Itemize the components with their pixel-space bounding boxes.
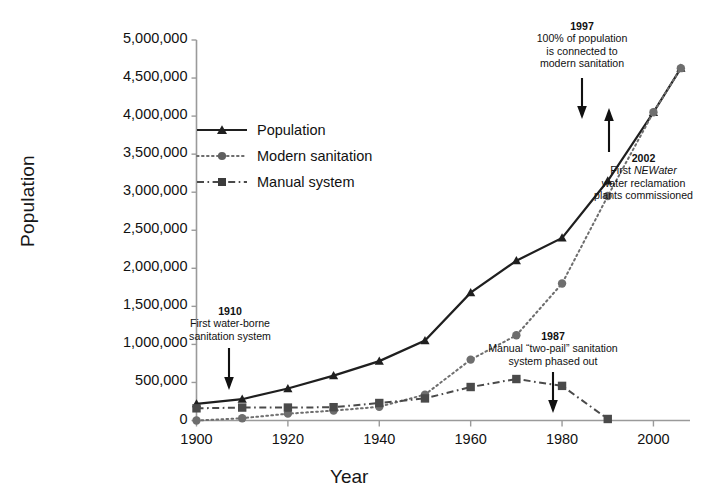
- y-tick-label: 3,000,000: [68, 182, 188, 198]
- annotation-1987-line1: Manual “two-pail” sanitation: [464, 342, 642, 354]
- legend-key-population-icon: [196, 123, 248, 137]
- data-point-manual-system[interactable]: [238, 403, 246, 411]
- data-point-modern-sanitation[interactable]: [238, 414, 246, 422]
- annotation-1987-year: 1987: [464, 330, 642, 342]
- y-tick-label: 4,500,000: [68, 68, 188, 84]
- legend-item-modern-sanitation[interactable]: Modern sanitation: [196, 143, 372, 169]
- x-axis-title: Year: [330, 466, 368, 488]
- arrow-1910-head: [224, 377, 234, 390]
- series-line-manual-system: [197, 379, 608, 419]
- annotation-1997: 1997 100% of population is connected to …: [502, 20, 662, 70]
- x-tick-label: 2000: [623, 431, 683, 447]
- data-point-modern-sanitation[interactable]: [558, 279, 566, 287]
- chart-axes: [192, 40, 691, 427]
- chart-legend: Population Modern sanitation Manual syst…: [196, 117, 372, 195]
- data-point-manual-system[interactable]: [466, 383, 474, 391]
- x-tick-label: 1900: [167, 431, 227, 447]
- chart-container: Population Year 0500,0001,000,0001,500,0…: [0, 0, 703, 502]
- annotation-1997-year: 1997: [502, 20, 662, 32]
- data-point-manual-system[interactable]: [512, 375, 520, 383]
- annotation-1987-line2: system phased out: [464, 355, 642, 367]
- data-point-manual-system[interactable]: [375, 399, 383, 407]
- annotation-1910-year: 1910: [160, 305, 300, 317]
- annotation-1997-line2: is connected to: [502, 45, 662, 57]
- annotation-1910: 1910 First water-borne sanitation system: [160, 305, 300, 342]
- annotation-2002-line2: water reclamation: [586, 177, 701, 189]
- data-point-modern-sanitation[interactable]: [192, 416, 200, 424]
- annotation-1987: 1987 Manual “two-pail” sanitation system…: [464, 330, 642, 367]
- y-tick-label: 4,000,000: [68, 106, 188, 122]
- annotation-1997-line3: modern sanitation: [502, 57, 662, 69]
- data-point-manual-system[interactable]: [421, 394, 429, 402]
- legend-key-manual-system-icon: [196, 175, 248, 189]
- legend-label-population: Population: [257, 122, 326, 138]
- legend-item-manual-system[interactable]: Manual system: [196, 169, 372, 195]
- arrow-1987-head: [548, 400, 558, 413]
- annotation-1910-line1: First water-borne: [160, 317, 300, 329]
- annotation-2002-line1-pre: First: [610, 164, 634, 176]
- annotation-2002: 2002 First NEWater water reclamation pla…: [586, 152, 701, 202]
- data-point-manual-system[interactable]: [558, 382, 566, 390]
- legend-label-modern-sanitation: Modern sanitation: [257, 148, 372, 164]
- data-point-manual-system[interactable]: [604, 415, 612, 423]
- annotation-2002-line1: First NEWater: [586, 164, 701, 176]
- y-tick-label: 0: [68, 411, 188, 427]
- arrow-1997-head: [577, 106, 587, 119]
- x-tick-label: 1920: [258, 431, 318, 447]
- data-point-modern-sanitation[interactable]: [649, 108, 657, 116]
- y-tick-label: 2,500,000: [68, 220, 188, 236]
- annotation-1997-line1: 100% of population: [502, 32, 662, 44]
- annotation-2002-year: 2002: [586, 152, 701, 164]
- x-tick-label: 1940: [349, 431, 409, 447]
- annotation-2002-newater: NEWater: [634, 164, 677, 176]
- legend-item-population[interactable]: Population: [196, 117, 372, 143]
- legend-label-manual-system: Manual system: [257, 174, 355, 190]
- y-tick-label: 2,000,000: [68, 258, 188, 274]
- data-point-manual-system[interactable]: [329, 403, 337, 411]
- data-point-manual-system[interactable]: [284, 403, 292, 411]
- data-point-manual-system[interactable]: [192, 404, 200, 412]
- arrow-2002-head: [604, 108, 614, 121]
- annotation-2002-line3: plants commissioned: [586, 189, 701, 201]
- annotation-1910-line2: sanitation system: [160, 330, 300, 342]
- legend-key-modern-sanitation-icon: [196, 149, 248, 163]
- y-tick-label: 3,500,000: [68, 144, 188, 160]
- y-tick-label: 500,000: [68, 372, 188, 388]
- x-tick-label: 1960: [441, 431, 501, 447]
- data-point-modern-sanitation[interactable]: [677, 64, 685, 72]
- x-tick-label: 1980: [532, 431, 592, 447]
- y-tick-label: 5,000,000: [68, 30, 188, 46]
- y-axis-title: Population: [17, 111, 39, 291]
